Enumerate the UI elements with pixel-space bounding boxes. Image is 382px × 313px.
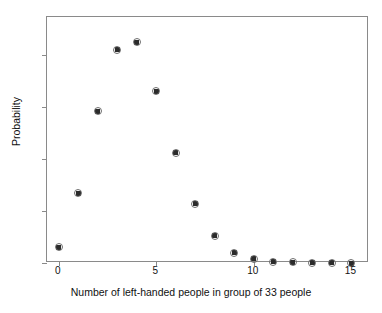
data-point (271, 259, 276, 264)
data-point (193, 201, 198, 206)
data-point (76, 191, 81, 196)
x-tick-label: 5 (135, 266, 175, 276)
data-point (134, 40, 139, 45)
data-point (173, 150, 178, 155)
y-tick-mark (42, 263, 47, 264)
data-point (154, 89, 159, 94)
x-tick-label: 15 (330, 266, 370, 276)
data-point (212, 233, 217, 238)
x-tick-label: 10 (233, 266, 273, 276)
x-axis-title: Number of left-handed people in group of… (0, 287, 382, 298)
data-point (251, 256, 256, 261)
data-point (56, 245, 61, 250)
data-point (290, 260, 295, 265)
y-tick-mark (42, 159, 47, 160)
chart-figure: Probability Number of left-handed people… (0, 0, 382, 313)
y-tick-mark (42, 55, 47, 56)
y-tick-mark (42, 107, 47, 108)
y-tick-mark (42, 211, 47, 212)
data-point (232, 250, 237, 255)
data-point (329, 260, 334, 265)
y-axis-title: Probability (11, 62, 22, 182)
data-point (115, 47, 120, 52)
data-point (95, 109, 100, 114)
plot-area (46, 16, 368, 262)
data-point (310, 260, 315, 265)
x-tick-label: 0 (38, 266, 78, 276)
